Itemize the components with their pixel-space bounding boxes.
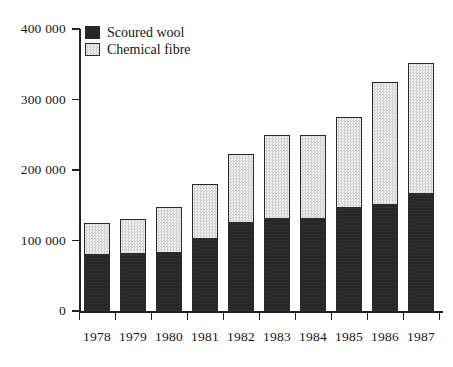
bar-1986 (372, 82, 398, 311)
y-axis-tick-label: 300 000 (21, 93, 66, 107)
bar-segment-chemical-fibre (372, 82, 398, 205)
legend-swatch-scoured-wool (85, 26, 100, 39)
y-axis-tick-label: 400 000 (21, 22, 66, 36)
bar-1985 (336, 117, 362, 311)
y-axis-tick (72, 28, 80, 29)
x-axis-tick (151, 312, 152, 320)
bar-1984 (300, 135, 326, 311)
bar-segment-chemical-fibre (156, 207, 182, 254)
bar-segment-scoured-wool (228, 223, 254, 311)
bar-1979 (120, 219, 146, 311)
x-axis-tick (79, 312, 80, 320)
x-axis-tick (403, 312, 404, 320)
bar-segment-scoured-wool (84, 255, 110, 311)
bar-1982 (228, 154, 254, 311)
x-axis-tick (331, 312, 332, 320)
x-axis-line (79, 311, 443, 313)
y-axis-tick (72, 99, 80, 100)
legend-item-scoured-wool: Scoured wool (85, 24, 191, 41)
bar-segment-chemical-fibre (120, 219, 146, 254)
y-axis-tick (72, 240, 80, 241)
x-axis-tick (223, 312, 224, 320)
bar-segment-chemical-fibre (228, 154, 254, 223)
x-axis-tick (187, 312, 188, 320)
x-axis-label-1987: 1987 (391, 330, 451, 344)
x-axis-tick (259, 312, 260, 320)
bar-segment-chemical-fibre (192, 184, 218, 239)
legend-item-chemical-fibre: Chemical fibre (85, 41, 191, 58)
stacked-bar-chart: Scoured wool Chemical fibre 0100 000200 … (0, 0, 453, 367)
bar-segment-chemical-fibre (264, 135, 290, 220)
chart-legend: Scoured wool Chemical fibre (85, 24, 191, 58)
y-axis-tick-label: 100 000 (21, 234, 66, 248)
x-axis-tick (439, 312, 440, 320)
bar-segment-chemical-fibre (84, 223, 110, 255)
x-axis-tick (367, 312, 368, 320)
bar-segment-scoured-wool (372, 205, 398, 311)
bar-segment-chemical-fibre (336, 117, 362, 208)
bar-1981 (192, 184, 218, 311)
bar-segment-scoured-wool (156, 253, 182, 311)
y-axis-tick-label: 0 (59, 304, 66, 318)
bar-segment-scoured-wool (408, 194, 434, 311)
bar-1978 (84, 223, 110, 311)
legend-label-chemical-fibre: Chemical fibre (107, 42, 191, 57)
bar-segment-scoured-wool (300, 219, 326, 311)
legend-label-scoured-wool: Scoured wool (107, 25, 184, 40)
bar-segment-chemical-fibre (408, 63, 434, 194)
bar-1987 (408, 63, 434, 311)
y-axis-tick (72, 169, 80, 170)
bar-segment-scoured-wool (120, 254, 146, 311)
bar-segment-scoured-wool (192, 239, 218, 311)
bar-1983 (264, 135, 290, 311)
x-axis-tick (115, 312, 116, 320)
bar-1980 (156, 207, 182, 311)
y-axis-tick-label: 200 000 (21, 163, 66, 177)
bar-segment-scoured-wool (264, 219, 290, 311)
legend-swatch-chemical-fibre (85, 43, 100, 56)
x-axis-tick (295, 312, 296, 320)
bar-segment-scoured-wool (336, 208, 362, 311)
bar-segment-chemical-fibre (300, 135, 326, 220)
